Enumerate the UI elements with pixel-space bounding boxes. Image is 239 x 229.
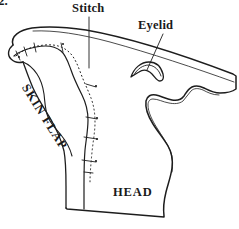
stitch-knot: [96, 117, 98, 119]
head-outline-left-tip: [9, 45, 23, 62]
stitch-mark: [24, 47, 27, 56]
anatomical-figure: Stitch Eyelid SKIN FLAP HEAD 2.: [0, 0, 239, 229]
stitch-knot: [95, 160, 97, 162]
eyelid-label: Eyelid: [138, 19, 173, 32]
eyelid-group: [131, 62, 163, 81]
stitch-mark: [84, 172, 93, 173]
head-outline-highlight: [33, 31, 234, 82]
stitch-knot: [96, 138, 98, 140]
stitch-dotted-line: [16, 45, 95, 183]
figure-number: 2.: [0, 0, 8, 9]
eyelid-leader-line: [147, 34, 163, 70]
stitch-knot: [95, 85, 97, 87]
head-outline-snout-shadow: [148, 89, 219, 172]
stitch-label: Stitch: [72, 2, 104, 15]
stitch-knot: [62, 43, 64, 45]
head-label: HEAD: [113, 186, 153, 199]
stitch-mark: [86, 84, 96, 87]
stitch-line-group: [16, 43, 98, 183]
stitch-knot: [18, 56, 20, 58]
